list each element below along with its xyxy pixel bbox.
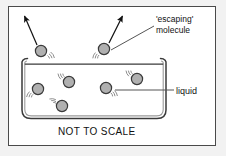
liquid-molecule-2 [58, 74, 75, 88]
motion-lines-2 [93, 53, 99, 59]
figure-evaporation-diagram: 'escaping' molecule liquid NOT TO SCALE [0, 0, 226, 156]
motion-lines-6 [111, 91, 117, 97]
caption-not-to-scale: NOT TO SCALE [58, 126, 136, 137]
liquid-molecule-5 [126, 71, 143, 85]
motion-lines-4 [58, 74, 64, 80]
liquid-molecule-3 [49, 99, 67, 112]
motion-lines-3 [27, 92, 34, 98]
motion-lines-5 [49, 99, 56, 104]
leader-line-escaping [111, 26, 154, 50]
label-escaping-line1: 'escaping' [156, 14, 193, 25]
label-escaping-line2: molecule [156, 25, 193, 36]
liquid-molecule-4 [100, 82, 117, 96]
motion-lines-7 [126, 71, 132, 77]
escaping-molecule-2 [93, 16, 123, 58]
liquid-molecule-1 [27, 83, 44, 97]
escaping-molecule-1 [25, 16, 55, 59]
label-liquid: liquid [176, 86, 197, 96]
label-escaping-molecule: 'escaping' molecule [156, 14, 193, 35]
motion-lines-1 [48, 52, 55, 59]
